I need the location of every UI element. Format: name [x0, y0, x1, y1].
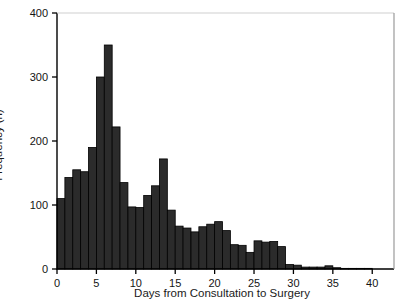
histogram-bar	[191, 232, 199, 269]
y-tick-label: 200	[30, 135, 48, 147]
histogram-bar	[128, 207, 136, 269]
histogram-bar	[73, 170, 81, 269]
histogram-bar	[89, 147, 97, 269]
y-axis-ticks: 0100200300400	[30, 7, 57, 275]
histogram-bar	[207, 224, 215, 269]
histogram-bar	[183, 228, 191, 269]
histogram-bar	[246, 252, 254, 269]
histogram-bar	[254, 241, 262, 269]
histogram-bar	[104, 45, 112, 269]
y-axis-label-text: Frequency (n)	[0, 109, 4, 181]
histogram-bar	[167, 210, 175, 269]
histogram-bar	[159, 159, 167, 269]
plot-area: 0510152025303540 0100200300400	[0, 0, 414, 306]
histogram-bar	[199, 227, 207, 269]
bar-series	[57, 45, 372, 269]
histogram-bar	[120, 183, 128, 269]
y-tick-label: 400	[30, 7, 48, 19]
histogram-bar	[262, 242, 270, 269]
histogram-bar	[230, 245, 238, 269]
histogram-bar	[136, 208, 144, 269]
histogram-bar	[175, 226, 183, 269]
histogram-bar	[57, 199, 65, 269]
histogram-bar	[81, 172, 89, 269]
y-tick-label: 0	[42, 263, 48, 275]
histogram-bar	[65, 177, 73, 269]
histogram-bar	[223, 231, 231, 269]
y-axis-label: Frequency (n)	[0, 0, 22, 306]
histogram-figure: Frequency (n) 0510152025303540 010020030…	[0, 0, 414, 306]
y-tick-label: 300	[30, 71, 48, 83]
y-tick-label: 100	[30, 199, 48, 211]
histogram-bar	[152, 186, 160, 269]
histogram-bar	[270, 241, 278, 269]
x-axis-label: Days from Consultation to Surgery	[57, 287, 387, 299]
x-axis-ticks: 0510152025303540	[54, 269, 378, 289]
histogram-bar	[96, 77, 104, 269]
histogram-bar	[278, 247, 286, 269]
histogram-bar	[238, 245, 246, 269]
histogram-bar	[215, 222, 223, 269]
histogram-bar	[144, 195, 152, 269]
histogram-bar	[112, 127, 120, 269]
